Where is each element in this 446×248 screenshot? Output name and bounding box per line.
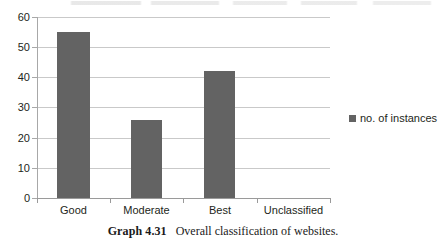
legend-swatch-icon [349, 115, 356, 122]
y-tick-mark-10 [32, 168, 37, 169]
x-tick-label-good: Good [37, 204, 110, 217]
y-tick-label-0: 0 [4, 193, 30, 204]
bar-moderate[interactable] [131, 120, 162, 198]
figure-caption: Graph 4.31Overall classification of webs… [0, 224, 446, 239]
bar-good[interactable] [57, 32, 90, 198]
figure-caption-text: Overall classification of websites. [176, 224, 339, 238]
y-tick-mark-60 [32, 17, 37, 18]
x-tick-sep-1 [110, 198, 111, 203]
gridline-60 [37, 17, 330, 18]
x-tick-sep-2 [183, 198, 184, 203]
chart-legend: no. of instances [349, 113, 437, 124]
y-tick-mark-30 [32, 107, 37, 108]
x-tick-label-moderate: Moderate [110, 204, 183, 217]
bar-best[interactable] [204, 71, 235, 198]
y-tick-mark-40 [32, 77, 37, 78]
x-tick-sep-0 [37, 198, 38, 203]
plot-area [37, 17, 330, 198]
bar-chart: 60 50 40 30 20 10 0 Good Moderate Best U… [0, 0, 446, 218]
figure-caption-label: Graph 4.31 [108, 224, 167, 238]
y-tick-label-30: 30 [4, 102, 30, 113]
x-tick-label-unclassified: Unclassified [257, 204, 330, 217]
x-tick-sep-4 [330, 198, 331, 203]
x-tick-sep-3 [257, 198, 258, 203]
y-tick-label-10: 10 [4, 163, 30, 174]
y-tick-label-40: 40 [4, 72, 30, 83]
y-tick-label-50: 50 [4, 42, 30, 53]
y-tick-label-20: 20 [4, 133, 30, 144]
x-tick-label-best: Best [183, 204, 257, 217]
legend-entry-label: no. of instances [360, 113, 437, 124]
y-axis-line [37, 17, 38, 199]
y-tick-mark-20 [32, 138, 37, 139]
y-tick-label-60: 60 [4, 12, 30, 23]
y-tick-mark-50 [32, 47, 37, 48]
